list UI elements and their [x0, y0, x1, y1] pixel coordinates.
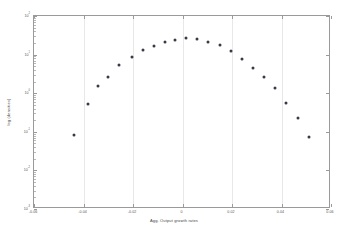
data-point	[207, 40, 210, 43]
y-minor-tick	[34, 95, 36, 96]
y-tick-label: 102	[14, 12, 30, 17]
y-minor-tick	[34, 109, 36, 110]
y-minor-tick	[34, 134, 36, 135]
x-tick-mark-top	[84, 16, 85, 19]
x-tick-mark	[133, 204, 134, 207]
data-point	[263, 76, 266, 79]
data-point	[296, 116, 299, 119]
x-tick-label: -0.06	[29, 210, 38, 214]
x-tick-mark	[183, 204, 184, 207]
x-tick-mark	[232, 204, 233, 207]
y-minor-tick	[34, 18, 36, 19]
y-minor-tick	[34, 136, 36, 137]
y-minor-tick	[34, 28, 36, 29]
y-tick-mark-right	[326, 170, 329, 171]
data-point	[307, 135, 310, 138]
y-minor-tick	[34, 143, 36, 144]
data-point	[196, 38, 199, 41]
x-tick-mark	[84, 204, 85, 207]
plot-area	[33, 15, 330, 208]
y-minor-tick	[34, 172, 36, 173]
y-minor-tick	[34, 70, 36, 71]
x-gridline	[183, 16, 184, 207]
data-point	[174, 38, 177, 41]
y-minor-tick	[34, 120, 36, 121]
y-minor-tick	[34, 176, 36, 177]
x-gridline	[133, 16, 134, 207]
y-tick-label: 100	[14, 90, 30, 95]
y-minor-tick	[34, 179, 36, 180]
x-tick-mark-top	[331, 16, 332, 19]
x-tick-mark-top	[183, 16, 184, 19]
y-minor-tick	[34, 159, 36, 160]
x-axis-label: Agg. Output growth rates	[0, 218, 348, 223]
x-tick-label: 0.04	[277, 210, 284, 214]
y-tick-label: 10-1	[14, 128, 30, 133]
data-point	[153, 44, 156, 47]
data-point	[72, 133, 75, 136]
y-minor-tick	[34, 140, 36, 141]
data-point	[252, 66, 255, 69]
y-minor-tick	[34, 174, 36, 175]
data-point	[218, 44, 221, 47]
data-point	[107, 75, 110, 78]
y-minor-tick	[34, 31, 36, 32]
y-tick-mark-right	[326, 93, 329, 94]
y-tick-mark-right	[326, 16, 329, 17]
y-minor-tick	[34, 82, 36, 83]
y-minor-tick	[34, 56, 36, 57]
data-point	[87, 103, 90, 106]
y-minor-tick	[34, 66, 36, 67]
figure-canvas: Agg. Output growth rates log (densities)…	[0, 0, 348, 234]
y-minor-tick	[34, 75, 36, 76]
y-minor-tick	[34, 20, 36, 21]
y-minor-tick	[34, 61, 36, 62]
x-gridline	[232, 16, 233, 207]
x-tick-mark	[282, 204, 283, 207]
y-tick-mark-right	[326, 132, 329, 133]
y-minor-tick	[34, 138, 36, 139]
y-tick-mark-right	[326, 55, 329, 56]
y-minor-tick	[34, 63, 36, 64]
y-tick-label: 101	[14, 51, 30, 56]
data-point	[97, 84, 100, 87]
data-point	[240, 58, 243, 61]
data-point	[141, 49, 144, 52]
y-minor-tick	[34, 182, 36, 183]
data-point	[229, 49, 232, 52]
y-tick-label: 10-2	[14, 167, 30, 172]
x-tick-label: 0.06	[326, 210, 333, 214]
x-tick-label: -0.02	[128, 210, 137, 214]
y-minor-tick	[34, 25, 36, 26]
y-minor-tick	[34, 36, 36, 37]
data-point	[130, 56, 133, 59]
y-minor-tick	[34, 186, 36, 187]
data-point	[118, 63, 121, 66]
y-minor-tick	[34, 113, 36, 114]
y-minor-tick	[34, 197, 36, 198]
y-minor-tick	[34, 147, 36, 148]
data-point	[274, 87, 277, 90]
x-tick-mark-top	[232, 16, 233, 19]
x-tick-label: 0.02	[227, 210, 234, 214]
y-minor-tick	[34, 191, 36, 192]
y-minor-tick	[34, 58, 36, 59]
data-point	[185, 37, 188, 40]
y-minor-tick	[34, 102, 36, 103]
y-minor-tick	[34, 99, 36, 100]
y-minor-tick	[34, 105, 36, 106]
y-minor-tick	[34, 97, 36, 98]
y-axis-label: log (densities)	[6, 92, 11, 132]
data-point	[285, 102, 288, 105]
y-minor-tick	[34, 43, 36, 44]
x-tick-mark-top	[282, 16, 283, 19]
x-tick-label: -0.04	[78, 210, 87, 214]
x-gridline	[282, 16, 283, 207]
y-tick-label: 10-3	[14, 205, 30, 210]
y-minor-tick	[34, 22, 36, 23]
y-minor-tick	[34, 152, 36, 153]
x-tick-label: 0	[180, 210, 182, 214]
x-tick-mark	[34, 204, 35, 207]
data-point	[164, 41, 167, 44]
x-gridline	[84, 16, 85, 207]
